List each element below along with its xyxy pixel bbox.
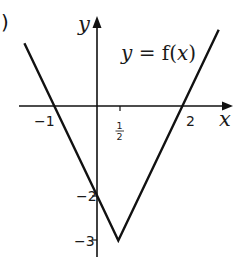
function-label-eq: = f(: [132, 41, 177, 65]
function-label-y: y: [120, 41, 133, 65]
y-axis-label: y: [77, 12, 91, 36]
y-axis-arrow-icon: [93, 16, 102, 28]
x-tick-label-2: 2: [186, 113, 195, 129]
function-graph: y x −1 1 2 2 −2 −3 y = f(x): [0, 0, 241, 257]
function-label-x: x: [177, 41, 188, 65]
function-label: y = f(x): [120, 41, 196, 65]
x-tick-label-minus1: −1: [34, 113, 55, 129]
y-tick-label-minus2: −2: [76, 188, 97, 204]
function-label-close: ): [188, 41, 196, 65]
x-tick-label-half-den: 2: [117, 131, 123, 142]
y-tick-label-minus3: −3: [74, 233, 95, 249]
x-axis-label: x: [219, 107, 231, 131]
x-tick-label-half-num: 1: [117, 120, 123, 131]
